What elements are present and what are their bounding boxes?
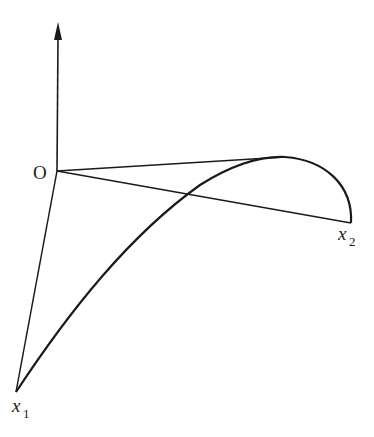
x1-label: x 1 [11,395,30,421]
vertical-axis [54,22,62,171]
line-origin-to-peak [57,157,285,171]
x2-label-subscript: 2 [349,234,356,249]
x1-label-subscript: 1 [23,406,30,421]
x2-label-base: x [337,223,347,244]
diagram-canvas: O x 1 x 2 [0,0,374,437]
origin-label: O [33,162,47,183]
curve-x1-to-x2 [16,157,351,392]
x2-label: x 2 [337,223,356,249]
arrow-up-icon [54,22,62,40]
line-origin-to-x1 [16,171,57,392]
x1-label-base: x [11,395,21,416]
line-origin-to-x2 [57,171,351,223]
